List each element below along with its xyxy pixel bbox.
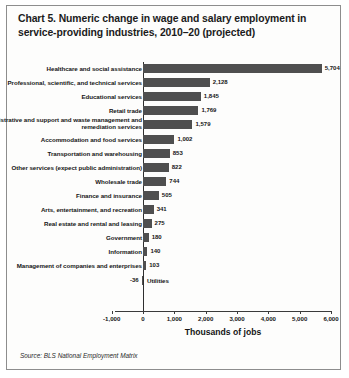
bar-row: Arts, entertainment, and recreation341 — [0, 203, 349, 217]
bar-category-label: Utilities — [147, 277, 207, 284]
bar — [143, 78, 210, 87]
bar — [143, 64, 322, 73]
bar — [143, 92, 201, 101]
bar-value-label: 1,845 — [204, 93, 219, 99]
x-axis-tick-label: 6,000 — [323, 315, 338, 322]
x-axis-tick-label: 5,000 — [292, 315, 307, 322]
x-axis-tick-label: -1,000 — [103, 315, 120, 322]
x-axis-tick-label: 4,000 — [261, 315, 276, 322]
x-axis-tick — [143, 311, 144, 314]
x-axis-tick — [237, 311, 238, 314]
bar-category-label: Retail trade — [0, 107, 142, 114]
bar-value-label: 5,704 — [325, 65, 340, 71]
bar-value-label: 1,579 — [195, 121, 210, 127]
bar-row: Finance and insurance505 — [0, 189, 349, 203]
chart-plot-area: Healthcare and social assistance5,704Pro… — [0, 0, 349, 378]
bar-row: Administrative and support and waste man… — [0, 118, 349, 132]
bar-row: Government180 — [0, 231, 349, 245]
bar-row: Information140 — [0, 245, 349, 259]
source-note: Source: BLS National Employment Matrix — [20, 352, 138, 359]
bar — [143, 261, 146, 270]
x-axis-tick — [331, 311, 332, 314]
bar-category-label: Government — [0, 234, 142, 241]
x-axis-tick-label: 3,000 — [229, 315, 244, 322]
bar — [143, 177, 166, 186]
bar-value-label: 853 — [173, 150, 183, 156]
bar-value-label: 341 — [157, 206, 167, 212]
bar-value-label: 140 — [150, 248, 160, 254]
bar-row: Transportation and warehousing853 — [0, 147, 349, 161]
bar-category-label: Professional, scientific, and technical … — [0, 79, 142, 86]
bar-value-label: 744 — [169, 178, 179, 184]
bar — [143, 135, 174, 144]
bar-row: Healthcare and social assistance5,704 — [0, 62, 349, 76]
bar-value-label: 1,769 — [201, 107, 216, 113]
bar-category-label: Accommodation and food services — [0, 136, 142, 143]
x-axis-line — [115, 311, 331, 312]
x-axis-tick — [300, 311, 301, 314]
bar-value-label: 1,002 — [177, 136, 192, 142]
bar-row: Educational services1,845 — [0, 90, 349, 104]
bar-value-label: 180 — [152, 234, 162, 240]
bar — [143, 219, 152, 228]
bar — [142, 276, 143, 285]
x-axis-tick — [268, 311, 269, 314]
bar — [143, 247, 147, 256]
bar-category-label: Administrative and support and waste man… — [0, 117, 142, 130]
bar-value-label: 103 — [149, 262, 159, 268]
bar-value-label: 2,128 — [213, 79, 228, 85]
bar-row: Other services (expect public administra… — [0, 161, 349, 175]
bar — [143, 205, 154, 214]
bar — [143, 191, 159, 200]
x-axis-tick — [174, 311, 175, 314]
bar-row: Wholesale trade744 — [0, 175, 349, 189]
bar-category-label: Information — [0, 248, 142, 255]
bar-row: Utilities-36 — [0, 274, 349, 288]
bar-value-label: 822 — [172, 164, 182, 170]
bar — [143, 106, 198, 115]
bar-category-label: Transportation and warehousing — [0, 150, 142, 157]
x-axis-tick-label: 1,000 — [167, 315, 182, 322]
bar-category-label: Educational services — [0, 93, 142, 100]
bar-category-label: Management of companies and enterprises — [0, 262, 142, 269]
x-axis-tick-label: 0 — [141, 315, 144, 322]
bar — [143, 120, 192, 129]
bar-value-label: -36 — [125, 277, 139, 283]
x-axis-tick — [112, 311, 113, 314]
bar — [143, 149, 170, 158]
bar-row: Accommodation and food services1,002 — [0, 133, 349, 147]
bar-category-label: Finance and insurance — [0, 192, 142, 199]
bar — [143, 233, 149, 242]
x-axis-title: Thousands of jobs — [115, 327, 331, 337]
bar — [143, 163, 169, 172]
bar-category-label: Other services (expect public administra… — [0, 164, 142, 171]
bar-row: Management of companies and enterprises1… — [0, 259, 349, 273]
bar-row: Professional, scientific, and technical … — [0, 76, 349, 90]
bar-category-label: Healthcare and social assistance — [0, 65, 142, 72]
bar-row: Real estate and rental and leasing275 — [0, 217, 349, 231]
bar-category-label: Arts, entertainment, and recreation — [0, 206, 142, 213]
bar-category-label: Wholesale trade — [0, 178, 142, 185]
bar-value-label: 275 — [155, 220, 165, 226]
x-axis-tick-label: 2,000 — [198, 315, 213, 322]
bar-category-label: Real estate and rental and leasing — [0, 220, 142, 227]
bar-value-label: 505 — [162, 192, 172, 198]
x-axis-tick — [206, 311, 207, 314]
